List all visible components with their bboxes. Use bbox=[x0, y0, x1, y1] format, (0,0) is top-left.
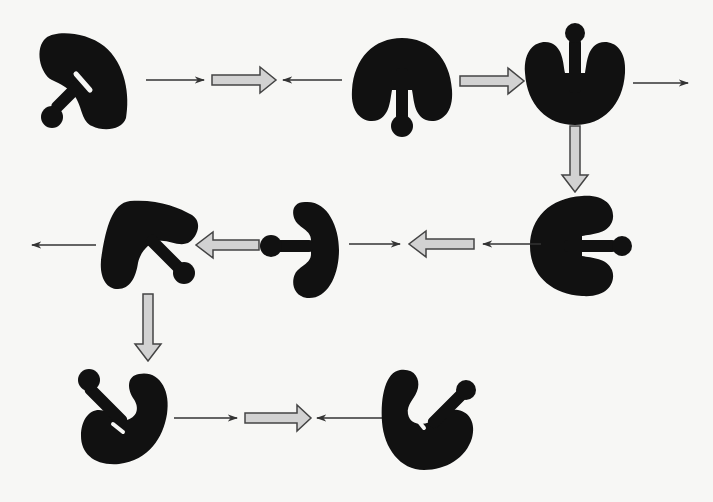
molecule-state-8 bbox=[382, 370, 476, 470]
block-arrow-down-1 bbox=[562, 126, 588, 192]
molecule-state-3 bbox=[525, 23, 625, 125]
molecule-state-5 bbox=[260, 202, 339, 298]
block-arrow-left-1 bbox=[409, 231, 474, 257]
block-arrow-right-1 bbox=[212, 67, 276, 93]
molecule-state-4 bbox=[530, 196, 632, 296]
molecule-state-7 bbox=[78, 369, 168, 464]
block-arrow-right-3 bbox=[245, 405, 311, 431]
molecule-state-1 bbox=[39, 33, 127, 129]
block-arrow-right-2 bbox=[460, 68, 524, 94]
reaction-cycle-diagram bbox=[0, 0, 713, 502]
block-arrow-left-2 bbox=[196, 232, 259, 258]
molecule-state-2 bbox=[352, 38, 452, 137]
molecule-state-6 bbox=[101, 201, 198, 289]
block-arrow-down-2 bbox=[135, 294, 161, 361]
